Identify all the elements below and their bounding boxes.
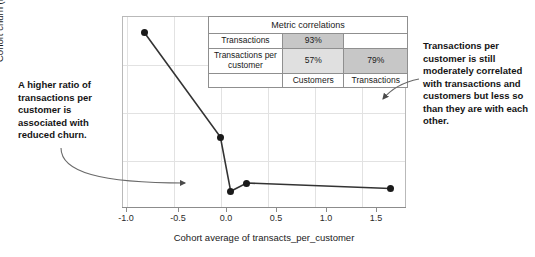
x-tick-label: 1.5	[356, 213, 396, 223]
x-tick-label: -0.5	[158, 213, 198, 223]
x-tick-label: -1.0	[106, 213, 146, 223]
y-axis-title: Cohort churn (relative)	[0, 0, 5, 62]
cell-tpc-customers: 57%	[282, 49, 344, 74]
x-tick-mark	[178, 208, 179, 212]
data-point	[217, 134, 224, 141]
table-title: Metric correlations	[209, 17, 408, 34]
annotation-left-text: A higher ratio of transactions per custo…	[18, 79, 110, 142]
annotation-right-text: Transactions per customer is still moder…	[423, 40, 529, 128]
table-row: Transactions 93%	[209, 34, 408, 49]
footer-blank	[209, 73, 283, 88]
table-row-footer: Customers Transactions	[209, 73, 408, 88]
table-row-title: Metric correlations	[209, 17, 408, 34]
x-tick-label: 0.0	[206, 213, 246, 223]
data-point	[243, 180, 250, 187]
table-row: Transactions per customer 57% 79%	[209, 49, 408, 74]
x-tick-label: 0.5	[256, 213, 296, 223]
column-header-customers: Customers	[282, 73, 344, 88]
x-axis-line	[122, 207, 406, 208]
data-point	[387, 185, 394, 192]
row-label-transactions: Transactions	[209, 34, 283, 49]
x-tick-mark	[276, 208, 277, 212]
x-tick-mark	[126, 208, 127, 212]
chart-figure: -1.0 -0.5 0.0 0.5 1.0 1.5 Cohort average…	[0, 0, 535, 257]
x-tick-mark	[226, 208, 227, 212]
cell-transactions-transactions	[344, 34, 408, 49]
metric-correlations-table: Metric correlations Transactions 93% Tra…	[208, 16, 408, 88]
x-tick-mark	[326, 208, 327, 212]
x-tick-label: 1.0	[306, 213, 346, 223]
column-header-transactions: Transactions	[344, 73, 408, 88]
data-point	[227, 188, 234, 195]
cell-tpc-transactions: 79%	[344, 49, 408, 74]
x-tick-mark	[376, 208, 377, 212]
row-label-transactions-per-customer: Transactions per customer	[209, 49, 283, 74]
cell-transactions-customers: 93%	[282, 34, 344, 49]
x-axis-title: Cohort average of transacts_per_customer	[122, 232, 406, 243]
